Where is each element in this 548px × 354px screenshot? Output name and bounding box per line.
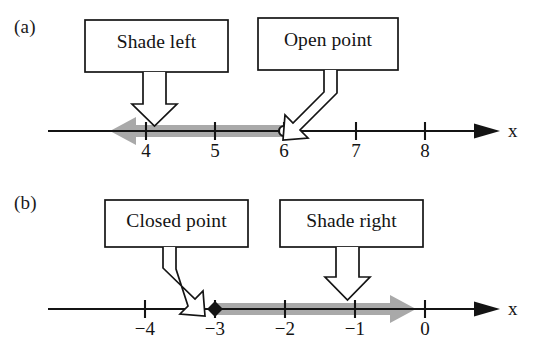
axis-name-b: x	[508, 298, 518, 320]
tick-label-b-2: −2	[265, 318, 305, 340]
axis-arrowhead-a	[474, 124, 500, 139]
tick-label-a-1: 5	[195, 140, 235, 162]
callout-label-closed-point: Closed point	[105, 210, 248, 232]
panel-label-a: (a)	[14, 16, 36, 38]
tick-label-b-0: −4	[125, 318, 165, 340]
callout-arrow-closed-point	[163, 247, 205, 316]
tick-label-a-2: 6	[264, 140, 304, 162]
tick-label-a-4: 8	[405, 140, 445, 162]
axis-arrowhead-b	[474, 302, 500, 317]
callout-arrow-shade-right	[325, 247, 370, 300]
callout-label-open-point: Open point	[258, 29, 398, 51]
number-line-figure: (a) (b) Shade left Open point Closed poi…	[0, 0, 548, 354]
tick-label-a-0: 4	[126, 140, 166, 162]
callout-label-shade-right: Shade right	[280, 210, 423, 232]
callout-arrow-shade-left	[132, 72, 177, 126]
figure-canvas	[0, 0, 548, 354]
tick-label-b-1: −3	[195, 318, 235, 340]
tick-label-b-4: 0	[405, 318, 445, 340]
tick-label-b-3: −1	[335, 318, 375, 340]
callout-arrow-open-point	[283, 70, 337, 140]
panel-label-b: (b)	[14, 192, 37, 214]
callout-label-shade-left: Shade left	[85, 31, 228, 53]
tick-label-a-3: 7	[336, 140, 376, 162]
axis-name-a: x	[508, 120, 518, 142]
